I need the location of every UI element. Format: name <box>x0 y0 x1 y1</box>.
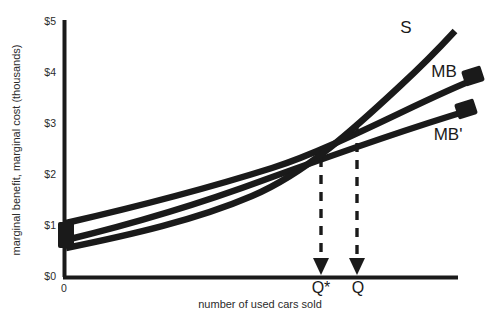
y-tick-label-5: $5 <box>44 15 56 27</box>
x-origin-label: 0 <box>61 282 67 294</box>
curve-mb <box>66 78 478 223</box>
y-tick-label-1: $1 <box>44 219 56 231</box>
y-axis-title: marginal benefit, marginal cost (thousan… <box>10 45 22 256</box>
left-endpoint-marker <box>58 222 74 248</box>
economics-chart: $5 $4 $3 $2 $1 $0 0 Q* Q S MB MB' number… <box>0 0 496 318</box>
x-tick-label-q: Q <box>352 279 364 296</box>
chart-canvas: $5 $4 $3 $2 $1 $0 0 Q* Q S MB MB' number… <box>0 0 496 318</box>
y-tick-label-4: $4 <box>44 66 56 78</box>
curve-s <box>66 31 455 248</box>
y-tick-label-3: $3 <box>44 117 56 129</box>
x-tick-label-q-star: Q* <box>312 279 331 296</box>
x-axis-title: number of used cars sold <box>198 298 322 310</box>
curve-mb-prime <box>66 110 470 240</box>
curve-label-mb: MB <box>431 62 457 81</box>
y-tick-label-0: $0 <box>44 270 56 282</box>
q-star-arrowhead <box>313 258 329 275</box>
curve-label-mb-prime: MB' <box>434 125 463 144</box>
q-arrowhead <box>349 258 365 275</box>
curve-label-s: S <box>400 18 411 37</box>
y-tick-label-2: $2 <box>44 168 56 180</box>
